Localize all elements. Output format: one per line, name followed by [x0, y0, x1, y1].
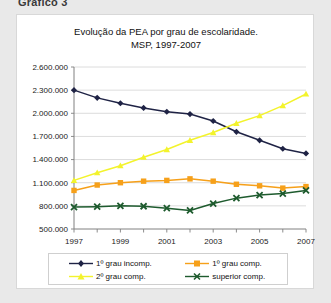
- legend-key-square-icon: [185, 258, 209, 269]
- legend-item-1-grau-incomp[interactable]: 1º grau incomp.: [53, 258, 179, 269]
- legend-key-diamond-icon: [69, 258, 93, 269]
- y-axis-labels: 500.000800.0001.100.0001.400.0001.700.00…: [32, 63, 68, 234]
- axis-lines: [74, 67, 306, 229]
- legend-item-1-grau-comp[interactable]: 1º grau comp.: [179, 258, 283, 269]
- svg-text:2007: 2007: [297, 237, 315, 246]
- x-axis-ticks: [74, 229, 306, 233]
- x-axis-labels: 199719992001200320052007: [65, 237, 315, 246]
- svg-text:1.700.000: 1.700.000: [32, 132, 68, 141]
- chart-panel: Evolução da PEA por grau de escolaridade…: [16, 14, 314, 289]
- svg-text:2003: 2003: [204, 237, 222, 246]
- chart-legend: 1º grau incomp. 1º grau comp. 2º g: [48, 253, 288, 285]
- legend-item-2-grau-comp[interactable]: 2º grau comp.: [53, 271, 179, 282]
- svg-text:2.600.000: 2.600.000: [32, 63, 68, 72]
- legend-label: 2º grau comp.: [96, 272, 146, 281]
- legend-label: 1º grau incomp.: [96, 259, 152, 268]
- svg-text:800.000: 800.000: [39, 202, 68, 211]
- plot-svg: 500.000800.0001.100.0001.400.0001.700.00…: [17, 15, 315, 290]
- legend-row-2: 2º grau comp. superior comp.: [53, 270, 283, 283]
- svg-text:2.300.000: 2.300.000: [32, 86, 68, 95]
- legend-label: 1º grau comp.: [212, 259, 262, 268]
- svg-text:1.100.000: 1.100.000: [32, 179, 68, 188]
- figure-caption: Gráfico 3: [18, 0, 68, 8]
- legend-key-x-icon: [185, 271, 209, 282]
- legend-item-superior-comp[interactable]: superior comp.: [179, 271, 283, 282]
- svg-text:1997: 1997: [65, 237, 83, 246]
- svg-text:2005: 2005: [251, 237, 269, 246]
- svg-text:2.000.000: 2.000.000: [32, 109, 68, 118]
- gridlines: [74, 67, 306, 206]
- data-series-group: [71, 87, 309, 213]
- svg-text:1999: 1999: [112, 237, 130, 246]
- svg-text:500.000: 500.000: [39, 225, 68, 234]
- plot-area: 500.000800.0001.100.0001.400.0001.700.00…: [17, 15, 315, 290]
- legend-key-triangle-icon: [69, 271, 93, 282]
- legend-label: superior comp.: [212, 272, 265, 281]
- svg-text:1.400.000: 1.400.000: [32, 155, 68, 164]
- legend-row-1: 1º grau incomp. 1º grau comp.: [53, 257, 283, 270]
- chart-screenshot: Gráfico 3 Evolução da PEA por grau de es…: [0, 0, 331, 303]
- svg-text:2001: 2001: [158, 237, 176, 246]
